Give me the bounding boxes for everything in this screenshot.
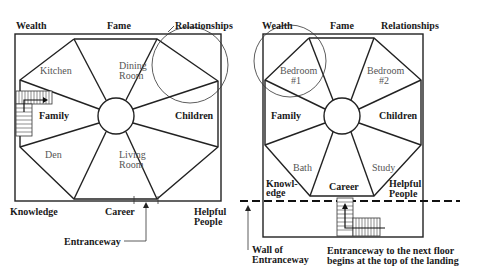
right-room-study: Study bbox=[372, 162, 395, 173]
left-room-dining-2: Room bbox=[119, 70, 144, 81]
left-label-children: Children bbox=[175, 110, 214, 121]
left-entrance-arrow-icon bbox=[143, 202, 149, 208]
left-label-relationships: Relationships bbox=[175, 20, 233, 31]
left-label-entranceway: Entranceway bbox=[64, 236, 121, 247]
left-label-fame: Fame bbox=[107, 20, 131, 31]
right-label-children: Children bbox=[379, 110, 418, 121]
left-label-family: Family bbox=[39, 110, 69, 121]
right-label-people: People bbox=[389, 188, 418, 199]
left-relationships-circle bbox=[152, 27, 228, 103]
bagua-floor-plans-diagram: Wealth Fame Relationships Family Childre… bbox=[0, 0, 481, 280]
right-room-bath: Bath bbox=[293, 162, 312, 173]
right-note-line-2: begins at the top of the landing bbox=[327, 255, 459, 266]
right-room-bedroom2-2: #2 bbox=[379, 75, 389, 86]
left-room-living-2: Room bbox=[119, 159, 144, 170]
right-floor-plan: Wealth Fame Relationships Family Childre… bbox=[240, 20, 460, 266]
left-room-den: Den bbox=[45, 149, 62, 160]
right-label-relationships: Relationships bbox=[381, 20, 439, 31]
right-wall-arrow-icon bbox=[245, 205, 251, 211]
right-label-wealth: Wealth bbox=[262, 20, 293, 31]
right-label-family: Family bbox=[271, 110, 301, 121]
right-room-bedroom1-2: #1 bbox=[291, 75, 301, 86]
left-center-circle bbox=[98, 98, 134, 134]
left-label-knowledge: Knowledge bbox=[10, 206, 58, 217]
left-label-people: People bbox=[194, 216, 223, 227]
right-wealth-circle bbox=[254, 25, 326, 97]
right-label-career: Career bbox=[329, 181, 359, 192]
right-staircase-icon bbox=[337, 198, 385, 236]
right-label-entranceway: Entranceway bbox=[252, 254, 309, 265]
left-floor-plan: Wealth Fame Relationships Family Childre… bbox=[10, 20, 233, 247]
right-label-fame: Fame bbox=[330, 20, 354, 31]
left-label-wealth: Wealth bbox=[16, 20, 47, 31]
right-center-circle bbox=[324, 98, 360, 134]
right-label-knowledge-2: edge bbox=[266, 187, 286, 198]
left-room-kitchen: Kitchen bbox=[40, 65, 72, 76]
left-label-career: Career bbox=[105, 206, 135, 217]
